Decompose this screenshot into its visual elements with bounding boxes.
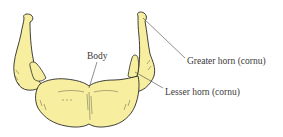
label-lesser-horn: Lesser horn (cornu) — [165, 88, 240, 98]
label-body: Body — [87, 52, 108, 62]
label-greater-horn: Greater horn (cornu) — [187, 57, 266, 67]
hyoid-bone-diagram — [0, 0, 283, 137]
right-lesser-horn — [128, 55, 139, 78]
